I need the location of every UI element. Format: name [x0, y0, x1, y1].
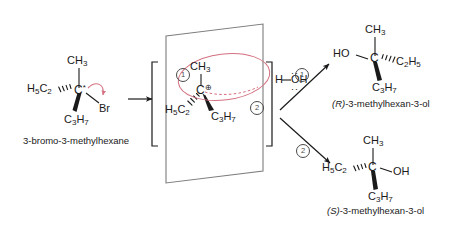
reactant-name-label: 3-bromo-3-methylhexane — [23, 136, 129, 146]
reaction-scheme-diagram: CH3 H5C2 C* C3H7 Br 3-bromo-3-methylhexa… — [0, 0, 452, 226]
cation-methyl-label: CH3 — [190, 61, 210, 74]
s-product-propyl-label: C3H7 — [368, 191, 393, 204]
reactant-stereocenter-label: C* — [74, 84, 86, 96]
r-product-name-label: (R)-3-methylhexan-3-ol — [332, 99, 430, 109]
r-product-methyl-label: CH3 — [365, 24, 385, 37]
r-product-ethyl-label: C2H5 — [396, 56, 421, 69]
s-product-methyl-label: CH3 — [363, 135, 383, 148]
cation-ethyl-label: H5C2 — [165, 104, 190, 117]
hashed-bond-ethyl-r — [382, 55, 395, 63]
pathway-marker-r: 1 — [295, 68, 309, 82]
s-product-ethyl-label: H5C2 — [322, 162, 347, 175]
attack-face-ellipse — [176, 49, 273, 106]
reactant-bromine-label: Br — [99, 103, 110, 114]
reactant-methyl-label: CH3 — [67, 55, 87, 68]
r-product-hydroxyl-label: HO — [333, 48, 350, 59]
attack-marker-1: 1 — [176, 68, 190, 82]
r-product-propyl-label: C3H7 — [372, 82, 397, 95]
cation-center-label: C⊕ — [196, 84, 212, 96]
water-hydrogen-label: H — [275, 74, 283, 85]
attack-marker-2: 2 — [250, 101, 264, 115]
curly-arrow-heterolysis — [88, 84, 103, 95]
hashed-bond-ethyl-s — [354, 164, 366, 171]
hashed-bond-ethyl — [59, 85, 71, 92]
cation-propyl-label: C3H7 — [211, 111, 236, 124]
pathway-marker-s: 2 — [296, 144, 310, 158]
r-product-center-label: C — [370, 52, 379, 64]
s-product-hydroxyl-label: OH — [393, 166, 410, 177]
s-product-center-label: C — [368, 161, 377, 173]
s-product-name-label: (S)-3-methylhexan-3-ol — [327, 206, 424, 216]
reactant-propyl-label: C3H7 — [64, 114, 89, 127]
bracket-left — [152, 62, 158, 146]
bracket-right — [266, 62, 272, 146]
oxygen-lone-pair-bottom-icon: ․․ — [291, 82, 299, 92]
reactant-ethyl-label: H5C2 — [27, 83, 52, 96]
